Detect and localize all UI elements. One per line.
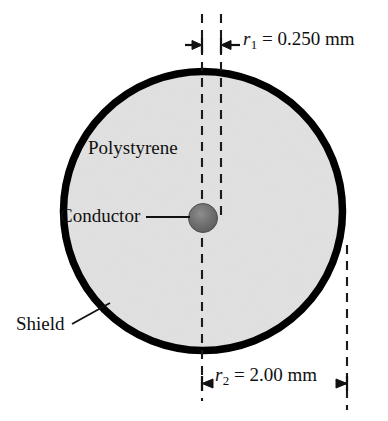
- shield-label: Shield: [16, 313, 65, 335]
- r1-value: 0.250: [277, 28, 320, 49]
- r1-equals: =: [262, 28, 273, 49]
- r2-symbol: r: [215, 364, 222, 385]
- r2-left-arrowhead: [202, 379, 213, 388]
- r2-equals: =: [234, 364, 245, 385]
- inner-radius-dimension-arrows: [185, 38, 240, 53]
- figure-canvas: [0, 0, 388, 421]
- r1-subscript: 1: [251, 37, 257, 52]
- r1-symbol: r: [243, 28, 250, 49]
- r2-value: 2.00: [249, 364, 282, 385]
- r2-subscript: 2: [223, 373, 229, 388]
- conductor-label: Conductor: [60, 205, 140, 227]
- r2-unit: mm: [287, 364, 317, 385]
- polystyrene-label: Polystyrene: [88, 137, 178, 159]
- r1-left-arrowhead: [192, 41, 202, 50]
- r1-right-arrowhead: [221, 41, 231, 50]
- inner-radius-dimension-label: r1 = 0.250 mm: [243, 28, 354, 53]
- center-conductor: [189, 204, 218, 233]
- r1-unit: mm: [325, 28, 355, 49]
- outer-radius-dimension-label: r2 = 2.00 mm: [215, 364, 317, 389]
- coaxial-cable-figure: Polystyrene Conductor Shield r1 = 0.250 …: [0, 0, 388, 421]
